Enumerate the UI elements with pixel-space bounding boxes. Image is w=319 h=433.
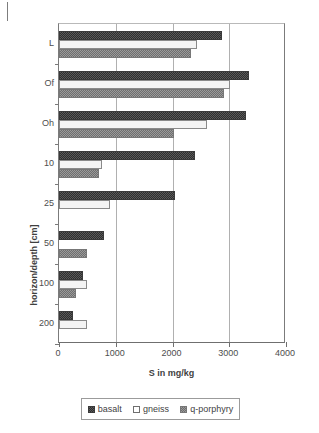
x-axis-title: S in mg/kg	[58, 368, 285, 378]
bar-basalt-200	[59, 311, 73, 320]
bar-basalt-10	[59, 151, 195, 160]
chart-legend: basalt gneiss q-porphyry	[81, 398, 240, 420]
y-tick-25	[55, 224, 59, 225]
y-tick-label-10: 10	[6, 158, 54, 168]
bar-basalt-Of	[59, 71, 249, 80]
bar-gneiss-200	[59, 320, 87, 329]
x-tick-3000	[229, 342, 230, 347]
legend-swatch-basalt	[88, 406, 95, 413]
bar-group-100	[59, 264, 284, 304]
y-tick-label-25: 25	[6, 198, 54, 208]
bar-gneiss-L	[59, 40, 197, 49]
bar-basalt-100	[59, 271, 83, 280]
x-axis-tick-labels: 01000200030004000	[58, 348, 285, 362]
bar-basalt-L	[59, 31, 222, 40]
bar-group-200	[59, 304, 284, 344]
bar-group-10	[59, 144, 284, 184]
bar-group-L	[59, 24, 284, 64]
x-tick-label-3000: 3000	[218, 348, 238, 359]
bar-q-porphyry-10	[59, 169, 99, 178]
y-tick-label-Of: Of	[6, 78, 54, 88]
bar-gneiss-Of	[59, 80, 230, 89]
y-tick-L	[55, 64, 59, 65]
bar-basalt-50	[59, 231, 104, 240]
bars-layer	[59, 24, 284, 342]
legend-swatch-gneiss	[133, 406, 140, 413]
x-tick-label-0: 0	[55, 348, 60, 359]
x-tick-2000	[173, 342, 174, 347]
x-tick-0	[59, 342, 60, 347]
legend-item-basalt: basalt	[88, 404, 122, 414]
legend-item-gneiss: gneiss	[133, 404, 169, 414]
bar-group-Of	[59, 64, 284, 104]
y-tick-10	[55, 184, 59, 185]
y-tick-label-Oh: Oh	[6, 118, 54, 128]
y-tick-label-200: 200	[6, 318, 54, 328]
bar-basalt-Oh	[59, 111, 246, 120]
page-artifact-mark	[7, 2, 8, 21]
plot-area	[58, 23, 285, 343]
y-axis-tick-labels: LOfOh102550100200	[0, 23, 54, 343]
legend-label-basalt: basalt	[98, 404, 122, 414]
legend-swatch-q-porphyry	[180, 406, 187, 413]
legend-label-q-porphyry: q-porphyry	[190, 404, 233, 414]
y-tick-label-100: 100	[6, 278, 54, 288]
x-tick-4000	[286, 342, 287, 347]
x-tick-1000	[116, 342, 117, 347]
bar-gneiss-10	[59, 160, 102, 169]
bar-basalt-25	[59, 191, 175, 200]
bar-chart-figure: horizon/depth [cm] LOfOh102550100200 010…	[0, 0, 319, 433]
y-tick-50	[55, 264, 59, 265]
bar-q-porphyry-L	[59, 49, 191, 58]
x-tick-label-2000: 2000	[161, 348, 181, 359]
x-tick-label-4000: 4000	[275, 348, 295, 359]
legend-label-gneiss: gneiss	[143, 404, 169, 414]
bar-q-porphyry-Oh	[59, 129, 174, 138]
bar-group-25	[59, 184, 284, 224]
x-tick-label-1000: 1000	[105, 348, 125, 359]
bar-q-porphyry-100	[59, 289, 76, 298]
legend-item-q-porphyry: q-porphyry	[180, 404, 233, 414]
y-tick-200	[55, 344, 59, 345]
y-tick-label-50: 50	[6, 238, 54, 248]
bar-gneiss-25	[59, 200, 110, 209]
bar-gneiss-Oh	[59, 120, 207, 129]
bar-group-50	[59, 224, 284, 264]
bar-group-Oh	[59, 104, 284, 144]
bar-q-porphyry-50	[59, 249, 87, 258]
y-tick-label-L: L	[6, 38, 54, 48]
bar-gneiss-100	[59, 280, 87, 289]
y-tick-Of	[55, 104, 59, 105]
bar-q-porphyry-Of	[59, 89, 224, 98]
y-tick-Oh	[55, 144, 59, 145]
y-tick-100	[55, 304, 59, 305]
